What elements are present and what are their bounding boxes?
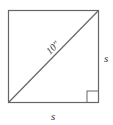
side-right-label: s: [104, 52, 108, 64]
diagonal-label: 10": [44, 38, 62, 56]
right-angle-marker: [87, 91, 99, 103]
diagonal-line: [9, 11, 99, 103]
square-diagram: 10" s s: [0, 0, 113, 125]
side-bottom-label: s: [51, 110, 55, 122]
